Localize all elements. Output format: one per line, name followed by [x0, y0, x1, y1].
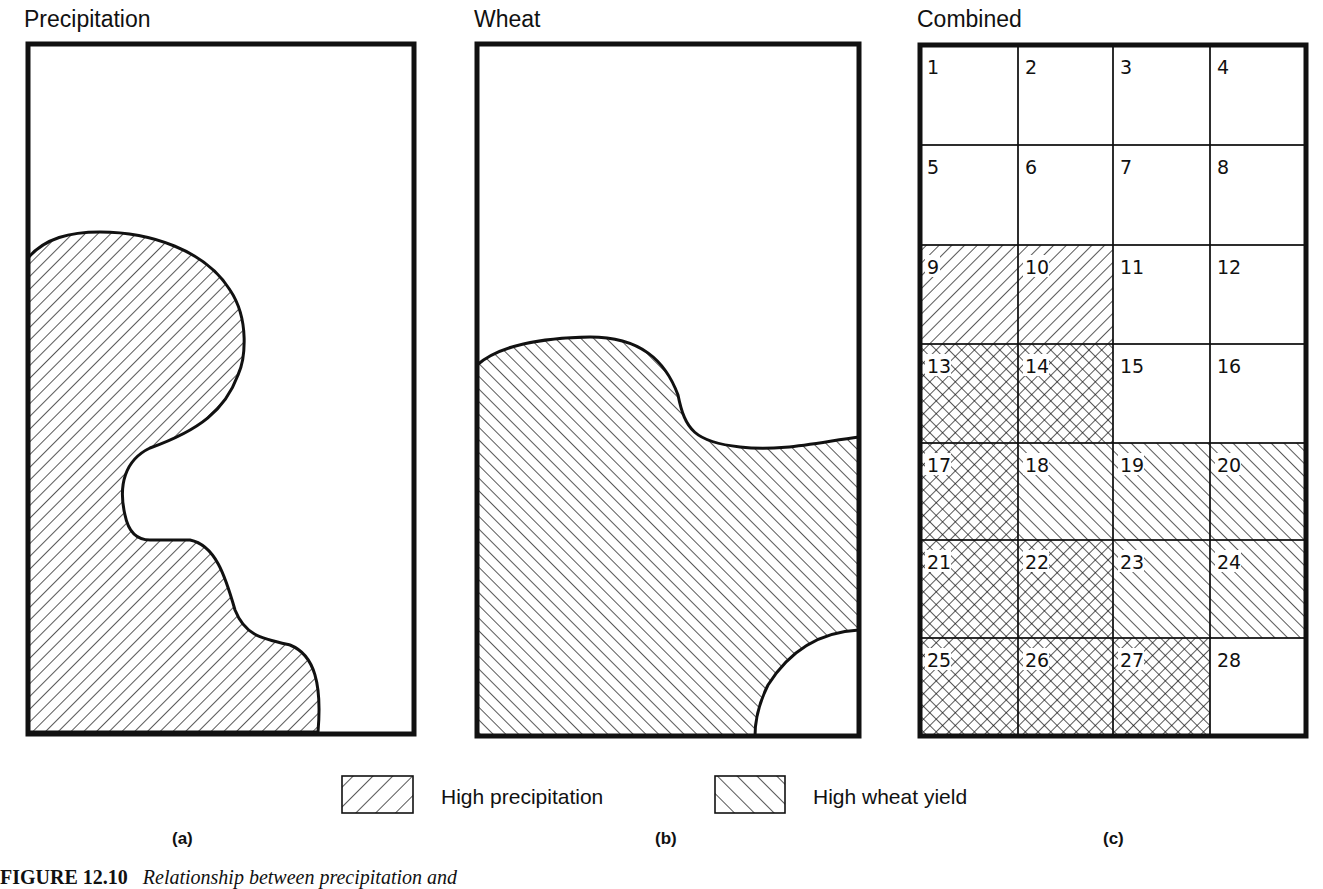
grid-cell-number: 19	[1120, 454, 1144, 476]
grid-cell-number: 1	[927, 56, 939, 78]
grid-cell-number: 17	[927, 454, 951, 476]
grid-cell-number: 6	[1025, 156, 1037, 178]
grid-cell: 21	[920, 540, 1018, 638]
grid-cell: 23	[1113, 540, 1210, 638]
grid-cell: 28	[1210, 638, 1306, 736]
grid-cell-number: 11	[1120, 256, 1144, 278]
grid-cell-number: 9	[927, 256, 939, 278]
grid-cell: 14	[1018, 344, 1113, 443]
grid-cell-number: 18	[1025, 454, 1049, 476]
panel-label-a: (a)	[172, 829, 193, 849]
grid-cell: 26	[1018, 638, 1113, 736]
panel-precipitation	[28, 44, 414, 734]
panel-wheat	[477, 44, 859, 736]
grid-cell: 25	[920, 638, 1018, 736]
legend-swatch-high-precipitation	[342, 776, 413, 813]
grid-cell: 5	[920, 145, 1018, 245]
grid-cell-number: 4	[1217, 56, 1229, 78]
panel-label-b: (b)	[655, 829, 677, 849]
grid-cell: 24	[1210, 540, 1306, 638]
grid-cell: 22	[1018, 540, 1113, 638]
grid-cell-number: 10	[1025, 256, 1049, 278]
grid-cell-number: 22	[1025, 551, 1049, 573]
grid-cell: 3	[1113, 45, 1210, 145]
grid-cell-number: 21	[927, 551, 951, 573]
grid-cell-number: 15	[1120, 355, 1144, 377]
grid-cell: 10	[1018, 245, 1113, 344]
panel-combined: 1234567891011121314151617181920212223242…	[920, 45, 1306, 736]
grid-cell-number: 12	[1217, 256, 1241, 278]
figure-number: FIGURE 12.10	[0, 866, 128, 888]
grid-cell: 18	[1018, 443, 1113, 540]
grid-cell: 11	[1113, 245, 1210, 344]
legend-label-high-wheat-yield: High wheat yield	[813, 785, 967, 809]
grid-cell: 7	[1113, 145, 1210, 245]
grid-cell-number: 7	[1120, 156, 1132, 178]
legend-label-high-precipitation: High precipitation	[441, 785, 603, 809]
grid-cell-number: 2	[1025, 56, 1037, 78]
grid-cell-number: 24	[1217, 551, 1241, 573]
grid-cell: 8	[1210, 145, 1306, 245]
grid-cell-number: 16	[1217, 355, 1241, 377]
grid-cell: 6	[1018, 145, 1113, 245]
grid-cell-number: 3	[1120, 56, 1132, 78]
grid-cell: 15	[1113, 344, 1210, 443]
high-wheat-yield-region	[477, 337, 859, 736]
grid-cell-number: 25	[927, 649, 951, 671]
grid-cell: 9	[920, 245, 1018, 344]
figure-caption: FIGURE 12.10 Relationship between precip…	[0, 866, 457, 889]
grid-cell: 2	[1018, 45, 1113, 145]
grid-cell: 1	[920, 45, 1018, 145]
grid-cell: 16	[1210, 344, 1306, 443]
grid-cell: 17	[920, 443, 1018, 540]
grid-cell-number: 14	[1025, 355, 1049, 377]
grid-cell-number: 5	[927, 156, 939, 178]
caption-text: Relationship between precipitation and	[143, 866, 457, 888]
grid-cell: 13	[920, 344, 1018, 443]
grid-cell-number: 20	[1217, 454, 1241, 476]
grid-cell-number: 8	[1217, 156, 1229, 178]
grid-cell-number: 26	[1025, 649, 1049, 671]
grid-cell: 12	[1210, 245, 1306, 344]
grid-cell: 4	[1210, 45, 1306, 145]
grid-cell-number: 13	[927, 355, 951, 377]
grid-cell-number: 28	[1217, 649, 1241, 671]
grid-cell: 20	[1210, 443, 1306, 540]
panel-label-c: (c)	[1103, 829, 1124, 849]
grid-cell: 19	[1113, 443, 1210, 540]
grid-cell: 27	[1113, 638, 1210, 736]
grid-cell-number: 27	[1120, 649, 1144, 671]
high-precipitation-region	[28, 232, 319, 732]
legend-swatch-high-wheat-yield	[715, 776, 785, 813]
grid-cell-number: 23	[1120, 551, 1144, 573]
